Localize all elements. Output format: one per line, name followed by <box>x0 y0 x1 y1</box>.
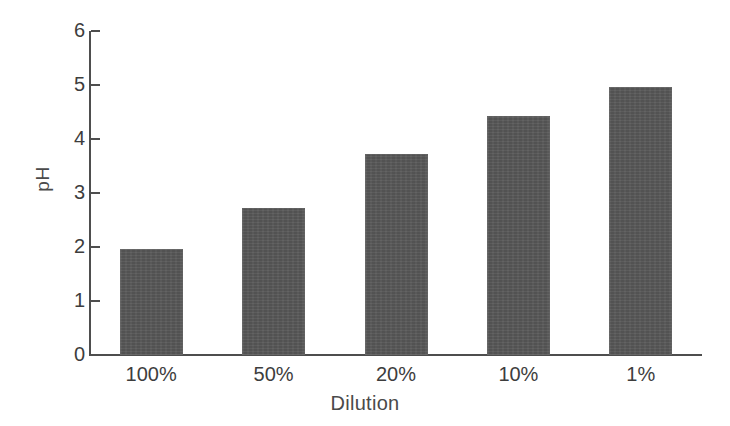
x-axis-tick-label: 10% <box>458 364 578 384</box>
y-axis-line <box>89 31 91 356</box>
y-axis-tick <box>91 138 100 140</box>
plot-area: 0123456100%50%20%10%1% <box>0 0 730 426</box>
bar <box>120 249 183 355</box>
x-axis-line <box>89 354 702 356</box>
y-axis-tick-label: 0 <box>55 344 85 364</box>
x-axis-tick-label: 1% <box>581 364 701 384</box>
y-axis-tick-label: 3 <box>55 182 85 202</box>
y-axis-title: pH <box>32 149 54 209</box>
x-axis-title: Dilution <box>0 392 730 415</box>
y-axis-tick <box>91 84 100 86</box>
x-axis-tick-label: 20% <box>336 364 456 384</box>
bar <box>609 87 672 355</box>
x-axis-tick-label: 50% <box>214 364 334 384</box>
bar <box>365 154 428 355</box>
bar <box>242 208 305 355</box>
bar <box>487 116 550 355</box>
y-axis-tick-label: 1 <box>55 290 85 310</box>
bar-chart: pH 0123456100%50%20%10%1% Dilution <box>0 0 730 426</box>
y-axis-tick <box>91 246 100 248</box>
x-axis-tick-label: 100% <box>91 364 211 384</box>
y-axis-tick-label: 2 <box>55 236 85 256</box>
y-axis-tick <box>91 30 100 32</box>
y-axis-tick-label: 5 <box>55 74 85 94</box>
y-axis-tick <box>91 300 100 302</box>
y-axis-tick-label: 4 <box>55 128 85 148</box>
y-axis-tick-label: 6 <box>55 20 85 40</box>
y-axis-tick <box>91 192 100 194</box>
